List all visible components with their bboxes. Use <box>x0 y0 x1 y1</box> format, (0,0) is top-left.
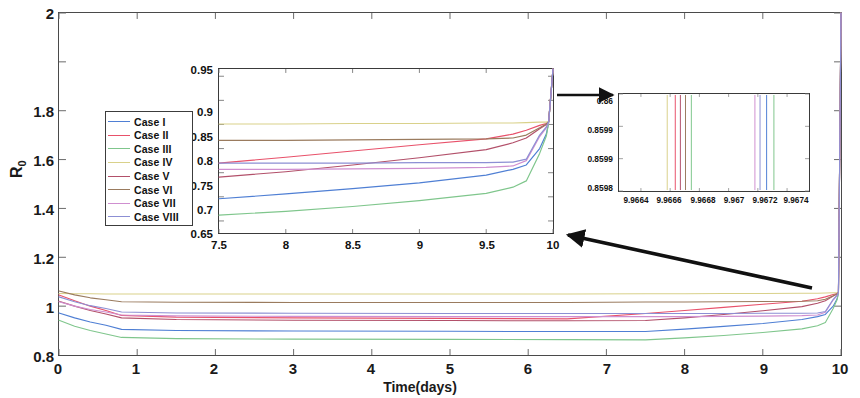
inset1-ytick-5: 0.9 <box>197 106 213 118</box>
inset1-curve-case-8 <box>219 69 553 163</box>
figure-canvas: 0.8 1 1.2 1.4 1.6 1.8 2 0 1 2 3 4 5 6 7 … <box>0 0 860 398</box>
inset1-curve-case-3 <box>219 69 553 215</box>
legend-item-8[interactable]: Case VIII <box>106 210 192 224</box>
inset1-ytick-2: 0.75 <box>191 180 213 192</box>
inset2-ytick-0: 0.86 <box>597 96 613 106</box>
main-xtick-10: 10 <box>832 360 849 377</box>
legend-item-4[interactable]: Case IV <box>106 156 192 170</box>
legend-item-7[interactable]: Case VII <box>106 197 192 211</box>
main-xtick-7: 7 <box>603 360 611 377</box>
legend-item-label: Case II <box>134 130 169 141</box>
inset2-ytick-2: 0.8599 <box>587 154 613 164</box>
inset-2-curves <box>619 94 809 191</box>
inset1-curve-case-1 <box>219 69 553 199</box>
main-xtick-6: 6 <box>524 360 532 377</box>
legend-item-label: Case VI <box>134 185 173 196</box>
inset2-ytick-3: 0.8598 <box>587 183 613 193</box>
inset2-xtick-1: 9.9666 <box>656 196 681 205</box>
legend-item-3[interactable]: Case III <box>106 142 192 156</box>
legend-item-label: Case IV <box>134 157 173 168</box>
inset2-xtick-2: 9.9668 <box>690 196 715 205</box>
main-xtick-2: 2 <box>210 360 218 377</box>
y-axis-title: R0 <box>8 160 28 178</box>
main-xtick-1: 1 <box>132 360 140 377</box>
inset-1-curves <box>219 69 553 233</box>
main-xtick-3: 3 <box>289 360 297 377</box>
legend-swatch-icon <box>108 189 130 190</box>
main-xtick-4: 4 <box>367 360 375 377</box>
inset1-ytick-4: 0.85 <box>191 131 213 143</box>
main-xtick-8: 8 <box>681 360 689 377</box>
legend-item-label: Case VII <box>134 198 176 209</box>
inset2-ytick-1: 0.8599 <box>587 125 613 135</box>
main-ytick-0: 0.8 <box>33 348 54 365</box>
main-xtick-9: 9 <box>760 360 768 377</box>
legend-item-label: Case III <box>134 144 172 155</box>
legend-swatch-icon <box>108 148 130 149</box>
inset1-ytick-6: 0.95 <box>191 64 213 76</box>
main-ytick-6: 2 <box>46 5 54 22</box>
legend-swatch-icon <box>108 176 130 177</box>
inset1-xtick-4: 9.5 <box>479 239 495 251</box>
inset1-xtick-2: 8.5 <box>345 239 361 251</box>
inset1-ytick-0: 0.65 <box>191 228 213 240</box>
main-xtick-5: 5 <box>446 360 454 377</box>
legend-item-label: Case V <box>134 171 170 182</box>
legend-swatch-icon <box>108 135 130 136</box>
legend-item-6[interactable]: Case VI <box>106 183 192 197</box>
x-axis-title: Time(days) <box>383 379 457 395</box>
inset2-xtick-3: 9.967 <box>724 196 745 205</box>
inset1-curve-case-7 <box>219 69 553 169</box>
legend-item-5[interactable]: Case V <box>106 169 192 183</box>
inset-zoom-2: 0.86 0.8599 0.8599 0.8598 9.9664 9.9666 … <box>618 93 810 192</box>
y-axis-title-sub: 0 <box>16 160 28 166</box>
legend-swatch-icon <box>108 216 130 217</box>
inset2-xtick-5: 9.9674 <box>783 196 808 205</box>
y-axis-title-main: R <box>8 166 25 178</box>
inset1-xtick-5: 10 <box>547 239 560 251</box>
main-ytick-5: 1.8 <box>33 103 54 120</box>
inset2-xtick-0: 9.9664 <box>623 196 648 205</box>
legend-box: Case ICase IICase IIICase IVCase VCase V… <box>105 111 193 226</box>
inset1-xtick-3: 9 <box>417 239 423 251</box>
inset-zoom-1: 0.65 0.7 0.75 0.8 0.85 0.9 0.95 7.5 8 8.… <box>218 68 554 234</box>
inset1-curve-case-2 <box>219 69 553 163</box>
legend-item-1[interactable]: Case I <box>106 115 192 129</box>
legend-swatch-icon <box>108 121 130 122</box>
legend-item-2[interactable]: Case II <box>106 129 192 143</box>
legend-item-label: Case I <box>134 117 166 128</box>
legend-swatch-icon <box>108 203 130 204</box>
inset1-xtick-1: 8 <box>283 239 289 251</box>
inset1-curve-case-6 <box>219 69 553 140</box>
inset1-ytick-3: 0.8 <box>197 155 213 167</box>
inset1-curve-case-4 <box>219 69 553 124</box>
main-xtick-0: 0 <box>54 360 62 377</box>
main-ytick-1: 1 <box>46 299 54 316</box>
main-ytick-3: 1.4 <box>33 201 54 218</box>
inset1-xtick-0: 7.5 <box>211 239 227 251</box>
legend-swatch-icon <box>108 162 130 163</box>
inset1-ytick-1: 0.7 <box>197 204 213 216</box>
main-ytick-2: 1.2 <box>33 250 54 267</box>
main-ytick-4: 1.6 <box>33 152 54 169</box>
legend-item-label: Case VIII <box>134 212 179 223</box>
inset2-xtick-4: 9.9672 <box>752 196 777 205</box>
